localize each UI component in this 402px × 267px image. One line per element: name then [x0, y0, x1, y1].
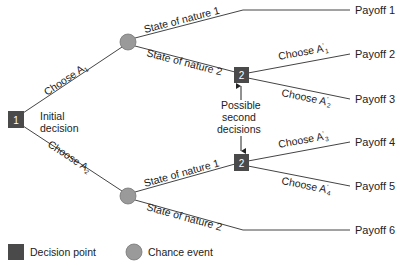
annotation-line3: decisions: [217, 123, 261, 135]
node-number: 2: [239, 158, 245, 169]
chance-event-legend-icon: [126, 244, 142, 260]
label-choose-a2: Choose A2: [45, 138, 94, 176]
label-upper-state2: State of nature 2: [145, 46, 223, 77]
node-number: 2: [239, 70, 245, 81]
label-lower-state2: State of nature 2: [145, 200, 223, 232]
chance-node-lower: [120, 188, 136, 204]
decision-point-legend-icon: [8, 244, 24, 260]
payoff-4: Payoff 4: [355, 136, 395, 148]
legend-chance-label: Chance event: [148, 246, 213, 258]
initial-caption-line1: Initial: [40, 110, 65, 122]
tree-edges: [20, 10, 350, 230]
legend-decision-label: Decision point: [30, 246, 96, 258]
initial-caption-line2: decision: [40, 122, 79, 134]
label-lower-state1: State of nature 1: [142, 156, 220, 188]
chance-node-upper: [120, 34, 136, 50]
label-upper-state1: State of nature 1: [142, 4, 220, 35]
payoff-2: Payoff 2: [355, 48, 395, 60]
decision-tree-diagram: 1 2 2 Initial decision Choose A1 Choose …: [0, 0, 402, 267]
node-number: 1: [13, 115, 19, 126]
annotation-line2: second: [222, 111, 256, 123]
payoff-1: Payoff 1: [355, 4, 395, 16]
payoff-5: Payoff 5: [355, 180, 395, 192]
payoff-3: Payoff 3: [355, 93, 395, 105]
payoff-6: Payoff 6: [355, 224, 395, 236]
label-choose-a1: Choose A1: [41, 60, 89, 98]
legend: Decision point Chance event: [8, 244, 213, 260]
annotation-line1: Possible: [221, 99, 261, 111]
